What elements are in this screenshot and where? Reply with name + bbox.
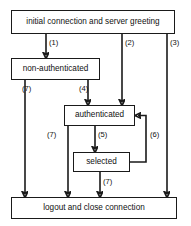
state-initial-connection-label: initial connection and server greeting xyxy=(26,18,159,26)
state-selected-label: selected xyxy=(86,158,117,166)
edge-label-4: (4) xyxy=(79,85,88,93)
state-authenticated-label: authenticated xyxy=(75,111,124,119)
state-authenticated[interactable]: authenticated xyxy=(64,105,135,126)
state-selected[interactable]: selected xyxy=(73,152,130,172)
imap-state-diagram: initial connection and server greeting n… xyxy=(0,0,191,226)
edge-label-7c: (7) xyxy=(103,178,112,186)
edge-label-7a: (7) xyxy=(22,85,31,93)
state-logout-close-connection[interactable]: logout and close connection xyxy=(11,197,177,219)
state-logout-close-connection-label: logout and close connection xyxy=(43,204,145,212)
edge-label-7b: (7) xyxy=(47,131,56,139)
edge-label-5: (5) xyxy=(98,131,107,139)
state-non-authenticated[interactable]: non-authenticated xyxy=(11,58,100,80)
edge-label-1: (1) xyxy=(49,39,58,47)
state-initial-connection[interactable]: initial connection and server greeting xyxy=(11,10,175,34)
edge-label-3: (3) xyxy=(170,39,179,47)
edge-label-6: (6) xyxy=(150,131,159,139)
edge-label-2: (2) xyxy=(125,39,134,47)
state-non-authenticated-label: non-authenticated xyxy=(23,65,89,73)
